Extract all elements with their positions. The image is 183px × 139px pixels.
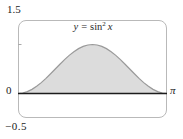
equation-function: sin bbox=[90, 21, 102, 32]
shaded-area bbox=[18, 45, 167, 94]
equation-lhs: y bbox=[73, 21, 78, 32]
x-axis-pi-label: π bbox=[170, 85, 176, 96]
equation-variable: x bbox=[108, 21, 113, 32]
figure-canvas: 1.5 0 π −0.5 y=sin2x bbox=[0, 0, 183, 139]
equation-exponent: 2 bbox=[102, 20, 106, 28]
origin-label: 0 bbox=[6, 85, 12, 96]
y-axis-max-label: 1.5 bbox=[7, 4, 21, 15]
curve-equation-label: y=sin2x bbox=[73, 20, 112, 35]
plot-svg bbox=[18, 20, 167, 118]
equation-equals: = bbox=[81, 21, 87, 32]
y-axis-min-label: −0.5 bbox=[5, 121, 27, 132]
